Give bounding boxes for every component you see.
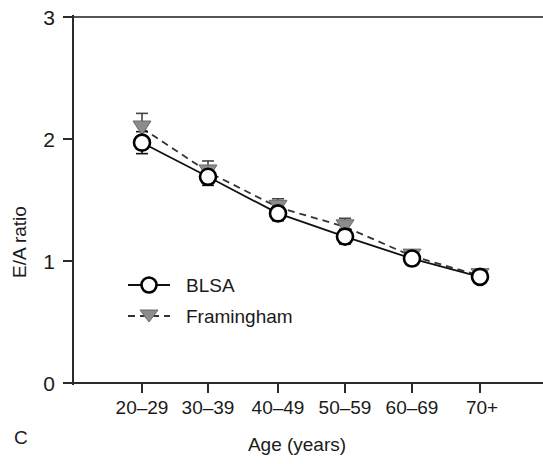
y-axis-title: E/A ratio <box>9 206 30 278</box>
x-axis-ticks <box>142 383 480 393</box>
y-tick-label-3: 3 <box>43 6 55 29</box>
x-tick-label-2: 40–49 <box>252 397 305 418</box>
legend-label-framingham: Framingham <box>186 306 293 327</box>
y-tick-label-2: 2 <box>43 128 55 151</box>
y-tick-label-0: 0 <box>43 372 55 395</box>
series-line-framingham <box>142 128 480 276</box>
x-tick-label-0: 20–29 <box>116 397 169 418</box>
legend-label-blsa: BLSA <box>186 275 235 296</box>
error-bars-framingham <box>136 113 486 280</box>
data-point-marker <box>404 251 420 267</box>
data-point-marker <box>200 169 216 185</box>
data-point-marker <box>472 269 488 285</box>
error-bars-blsa <box>136 132 486 282</box>
figure-panel: 3 2 1 0 E/A ratio 20–29 30–39 40–49 50–5… <box>0 0 543 464</box>
series-polyline-framingham <box>142 128 480 276</box>
legend-marker-open-circle-icon <box>142 278 157 293</box>
data-point-marker <box>134 135 150 151</box>
series-polyline-blsa <box>142 143 480 277</box>
data-point-marker <box>133 121 151 135</box>
data-point-marker <box>270 205 286 221</box>
y-axis-ticks <box>63 17 73 383</box>
legend-item-framingham[interactable]: Framingham <box>128 306 293 327</box>
series-line-blsa <box>142 143 480 277</box>
x-tick-label-4: 60–69 <box>386 397 439 418</box>
x-tick-label-3: 50–59 <box>319 397 372 418</box>
x-axis-title: Age (years) <box>248 434 346 455</box>
e-a-ratio-line-chart: 3 2 1 0 E/A ratio 20–29 30–39 40–49 50–5… <box>0 0 543 464</box>
data-point-marker <box>337 229 353 245</box>
y-tick-label-1: 1 <box>43 250 55 273</box>
data-markers-framingham <box>133 121 489 283</box>
x-tick-label-1: 30–39 <box>182 397 235 418</box>
chart-legend: BLSA Framingham <box>128 275 293 327</box>
panel-label: C <box>14 427 28 448</box>
x-tick-label-5: 70+ <box>466 397 498 418</box>
legend-item-blsa[interactable]: BLSA <box>128 275 235 296</box>
